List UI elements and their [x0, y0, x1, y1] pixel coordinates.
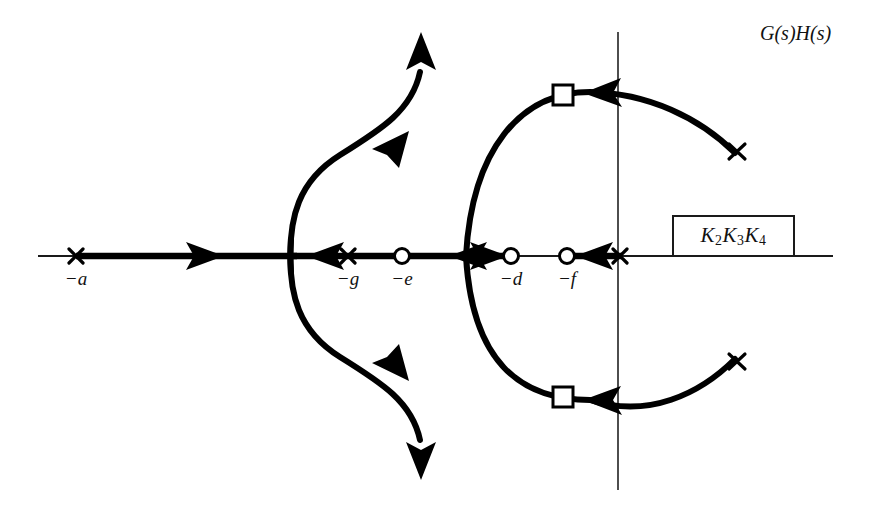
zero-minus-e-marker — [395, 249, 410, 264]
gain-annotation-label: K2K3K4 — [701, 223, 767, 249]
transfer-function-label: G(s)H(s) — [760, 22, 831, 45]
upper-breakaway-branch — [290, 72, 420, 272]
gain-k3-letter: K — [723, 223, 738, 247]
arrow-lower-branch-tip — [406, 442, 436, 480]
arrow-lower-arc — [583, 386, 622, 415]
locus-square-lower — [553, 387, 573, 407]
root-locus-plot — [0, 0, 872, 521]
gain-k2-letter: K — [701, 223, 716, 247]
locus-square-upper — [553, 85, 573, 105]
arrow-lower-branch-mid — [372, 344, 409, 381]
zero-label-minus-f: −f — [558, 268, 576, 290]
zero-minus-d-marker — [504, 249, 519, 264]
gain-k4-letter: K — [744, 223, 759, 247]
gain-k4-subscript: 4 — [759, 233, 766, 248]
zero-label-minus-d: −d — [500, 268, 522, 290]
arrow-upper-branch-tip — [406, 32, 436, 70]
root-locus-figure: G(s)H(s) −a −g −e −d −f K2K3K4 — [0, 0, 872, 521]
pole-label-minus-g: −g — [337, 268, 359, 290]
square-markers — [553, 85, 573, 407]
arrow-upper-branch-mid — [372, 131, 409, 168]
pole-label-minus-a: −a — [65, 268, 87, 290]
zero-minus-f-marker — [560, 249, 575, 264]
gain-k2-subscript: 2 — [715, 233, 722, 248]
gain-annotation-box: K2K3K4 — [672, 215, 795, 257]
axes-group — [38, 32, 833, 490]
zero-label-minus-e: −e — [391, 268, 412, 290]
